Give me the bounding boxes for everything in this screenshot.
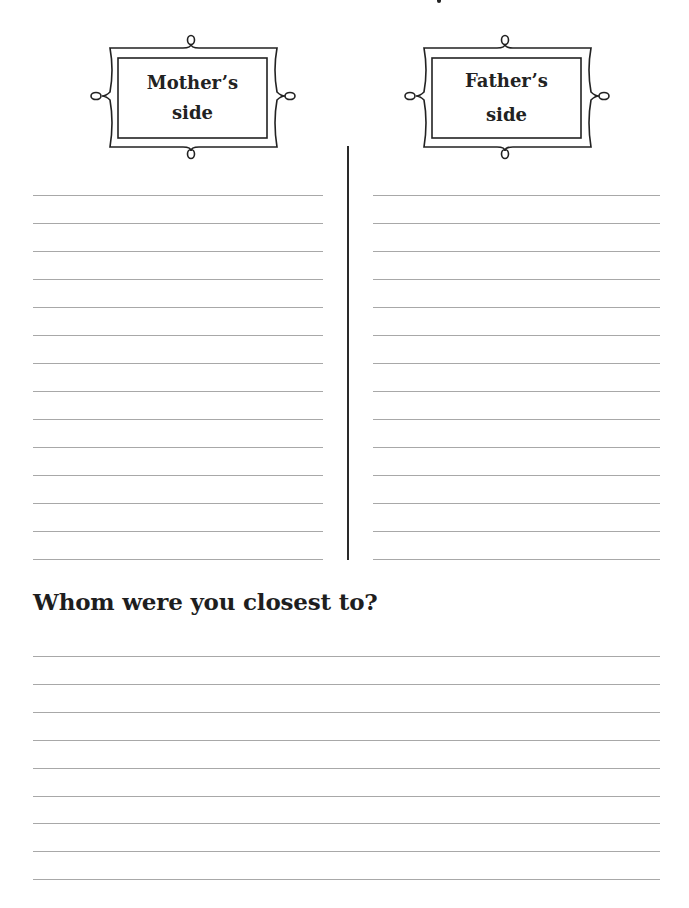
writing-line	[33, 712, 660, 713]
writing-line	[373, 279, 660, 280]
writing-line	[33, 251, 323, 252]
writing-line	[33, 363, 323, 364]
writing-line	[33, 559, 323, 560]
closest-to-heading: Whom were you closest to?	[33, 588, 378, 615]
writing-line	[33, 475, 323, 476]
writing-line	[373, 251, 660, 252]
writing-line	[373, 531, 660, 532]
writing-line	[373, 307, 660, 308]
writing-line	[373, 503, 660, 504]
writing-line	[373, 419, 660, 420]
writing-line	[33, 531, 323, 532]
writing-line	[373, 447, 660, 448]
writing-line	[33, 823, 660, 824]
writing-line	[373, 559, 660, 560]
writing-line	[373, 335, 660, 336]
column-divider	[347, 146, 349, 560]
mother-side-label-line1: Mother’s	[85, 67, 300, 99]
writing-line	[33, 223, 323, 224]
writing-line	[373, 475, 660, 476]
father-side-frame: Father’s side	[399, 30, 614, 160]
writing-line	[33, 195, 323, 196]
writing-line	[33, 851, 660, 852]
writing-line	[373, 391, 660, 392]
writing-line	[33, 447, 323, 448]
writing-line	[373, 195, 660, 196]
father-side-label-line1: Father’s	[399, 65, 614, 97]
writing-line	[33, 656, 660, 657]
writing-line	[33, 419, 323, 420]
mother-side-label-line2: side	[85, 97, 300, 129]
writing-line	[33, 796, 660, 797]
writing-line	[373, 223, 660, 224]
writing-line	[33, 740, 660, 741]
writing-line	[33, 879, 660, 880]
father-side-label-line2: side	[399, 99, 614, 131]
writing-line	[373, 363, 660, 364]
writing-line	[33, 279, 323, 280]
writing-line	[33, 503, 323, 504]
writing-line	[33, 684, 660, 685]
mother-side-frame: Mother’s side	[85, 30, 300, 160]
writing-line	[33, 307, 323, 308]
writing-line	[33, 768, 660, 769]
cut-off-title-fragment	[437, 0, 441, 3]
writing-line	[33, 335, 323, 336]
writing-line	[33, 391, 323, 392]
